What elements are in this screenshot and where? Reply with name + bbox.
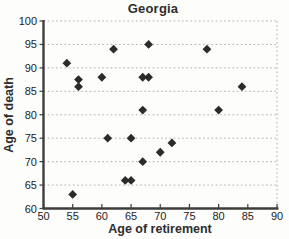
x-tick-label-85: 85	[242, 210, 254, 222]
y-tick-label-60: 60	[25, 203, 37, 215]
chart-title: Georgia	[36, 1, 270, 16]
y-tick-label-95: 95	[25, 38, 37, 50]
x-tick-label-70: 70	[154, 210, 166, 222]
y-tick-label-85: 85	[25, 85, 37, 97]
y-tick-label-70: 70	[25, 156, 37, 168]
x-tick-label-90: 90	[271, 210, 283, 222]
x-tick-label-55: 55	[67, 210, 79, 222]
x-tick-label-50: 50	[37, 210, 49, 222]
y-tick-label-90: 90	[25, 62, 37, 74]
x-axis-label: Age of retirement	[43, 222, 277, 236]
x-tick-label-60: 60	[96, 210, 108, 222]
y-tick-label-75: 75	[25, 132, 37, 144]
x-tick-label-65: 65	[125, 210, 137, 222]
x-tick-label-75: 75	[183, 210, 195, 222]
y-axis-label: Age of death	[2, 77, 16, 153]
plot-area: 5055606570758085906065707580859095100	[0, 0, 289, 239]
y-tick-label-65: 65	[25, 179, 37, 191]
scatter-plot-figure: 5055606570758085906065707580859095100 Ge…	[0, 0, 289, 239]
y-tick-label-100: 100	[19, 15, 37, 27]
x-tick-label-80: 80	[213, 210, 225, 222]
y-tick-label-80: 80	[25, 109, 37, 121]
